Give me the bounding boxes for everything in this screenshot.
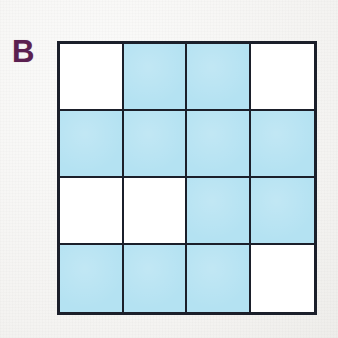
grid-cell-r3-c2 [124,178,188,245]
grid-cell-r1-c4 [251,44,315,111]
grid-cell-r1-c2 [124,44,188,111]
grid-cell-r3-c4 [251,178,315,245]
grid-cell-r2-c2 [124,111,188,178]
grid-cell-r4-c2 [124,245,188,312]
grid-cell-r1-c1 [60,44,124,111]
grid-cell-r3-c3 [187,178,251,245]
figure-canvas: B [0,0,338,338]
grid-heatmap [57,41,317,315]
grid-cell-r4-c4 [251,245,315,312]
grid-cell-r4-c3 [187,245,251,312]
grid-cell-r4-c1 [60,245,124,312]
grid-cell-r2-c4 [251,111,315,178]
panel-label: B [12,36,34,67]
grid-cell-r2-c3 [187,111,251,178]
grid-cell-r1-c3 [187,44,251,111]
grid-cell-r3-c1 [60,178,124,245]
grid-cell-r2-c1 [60,111,124,178]
grid-container [57,41,317,315]
